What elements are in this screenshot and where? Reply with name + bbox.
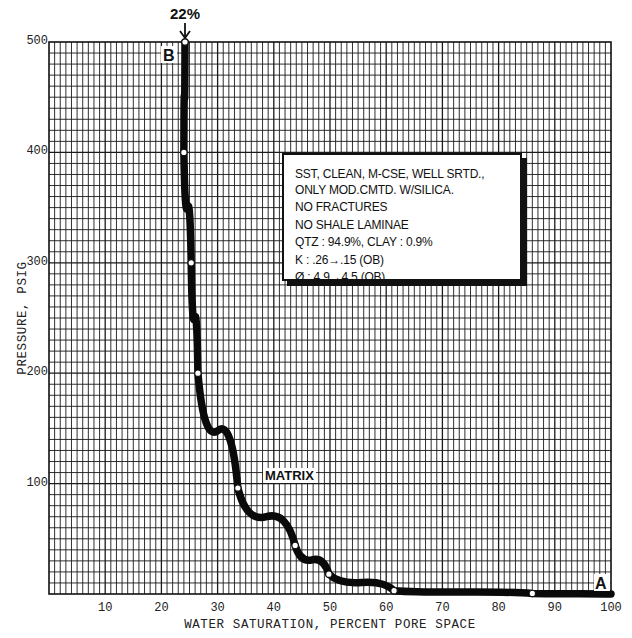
svg-text:30: 30	[210, 601, 224, 615]
info-line-fractures: NO FRACTURES	[295, 200, 520, 216]
svg-text:80: 80	[491, 601, 505, 615]
svg-text:90: 90	[548, 601, 562, 615]
svg-text:100: 100	[600, 601, 622, 615]
y-axis-title: PRESSURE, PSIG	[16, 261, 30, 374]
matrix-curve-label: MATRIX	[263, 468, 316, 483]
svg-text:50: 50	[323, 601, 337, 615]
x-axis-ticks: 102030405060708090100	[98, 601, 622, 615]
svg-text:100: 100	[26, 476, 48, 490]
svg-text:70: 70	[435, 601, 449, 615]
svg-text:10: 10	[98, 601, 112, 615]
top-arrow-label: 22%	[170, 5, 200, 22]
sample-description-box: SST, CLEAN, M-CSE, WELL SRTD., ONLY MOD.…	[282, 153, 522, 281]
down-arrow-icon	[180, 23, 190, 38]
svg-text:40: 40	[267, 601, 281, 615]
x-axis-title: WATER SATURATION, PERCENT PORE SPACE	[184, 618, 476, 632]
capillary-pressure-chart: 102030405060708090100 100200300400500 WA…	[0, 0, 632, 638]
info-line-cement: ONLY MOD.CMTD. W/SILICA.	[295, 183, 520, 199]
info-line-porosity: Ø : 4.9→4.5 (OB)	[295, 270, 520, 286]
svg-text:500: 500	[26, 34, 48, 48]
point-a-label: A	[595, 575, 607, 592]
graph-paper-grid	[49, 42, 611, 594]
info-line-permeability: K : .26→.15 (OB)	[295, 253, 520, 269]
point-b-label: B	[163, 47, 175, 64]
info-line-shale: NO SHALE LAMINAE	[295, 218, 520, 234]
info-line-lithology: SST, CLEAN, M-CSE, WELL SRTD.,	[295, 167, 520, 183]
svg-text:20: 20	[154, 601, 168, 615]
info-line-mineralogy: QTZ : 94.9%, CLAY : 0.9%	[295, 235, 520, 251]
svg-text:400: 400	[26, 144, 48, 158]
svg-text:60: 60	[379, 601, 393, 615]
